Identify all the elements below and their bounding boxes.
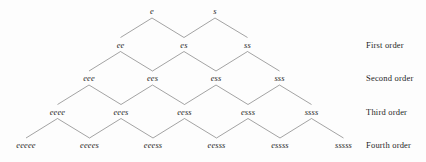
order-label-3: Third order (366, 107, 407, 116)
lattice-node-ees: ees (147, 74, 158, 83)
lattice-node-eeeee: eeeee (16, 141, 35, 150)
lattice-node-eesss: eesss (208, 141, 226, 150)
lattice-node-s: s (213, 7, 216, 16)
lattice-node-ss: ss (244, 40, 251, 49)
lattice-node-eeee: eeee (50, 107, 66, 116)
lattice-diagram: eseeessseeeeesessssseeeeeeeseessesssssss… (0, 0, 426, 162)
lattice-node-essss: essss (271, 141, 289, 150)
lattice-node-eeess: eeess (144, 141, 162, 150)
lattice-node-sss: sss (274, 74, 284, 83)
lattice-node-eess: eess (177, 107, 192, 116)
lattice-node-es: es (180, 40, 187, 49)
order-label-4: Fourth order (366, 141, 411, 150)
lattice-node-eee: eee (83, 74, 95, 83)
lattice-node-sssss: sssss (335, 141, 352, 150)
lattice-node-ess: ess (211, 74, 222, 83)
order-label-1: First order (366, 40, 404, 49)
lattice-node-ee: ee (117, 40, 125, 49)
lattice-node-ssss: ssss (305, 107, 319, 116)
lattice-node-eeees: eeees (80, 141, 99, 150)
order-label-2: Second order (366, 74, 413, 83)
lattice-node-eees: eees (113, 107, 128, 116)
node-layer: eseeessseeeeesessssseeeeeeeseessesssssss… (0, 0, 426, 162)
lattice-node-esss: esss (241, 107, 255, 116)
lattice-node-e: e (150, 7, 154, 16)
